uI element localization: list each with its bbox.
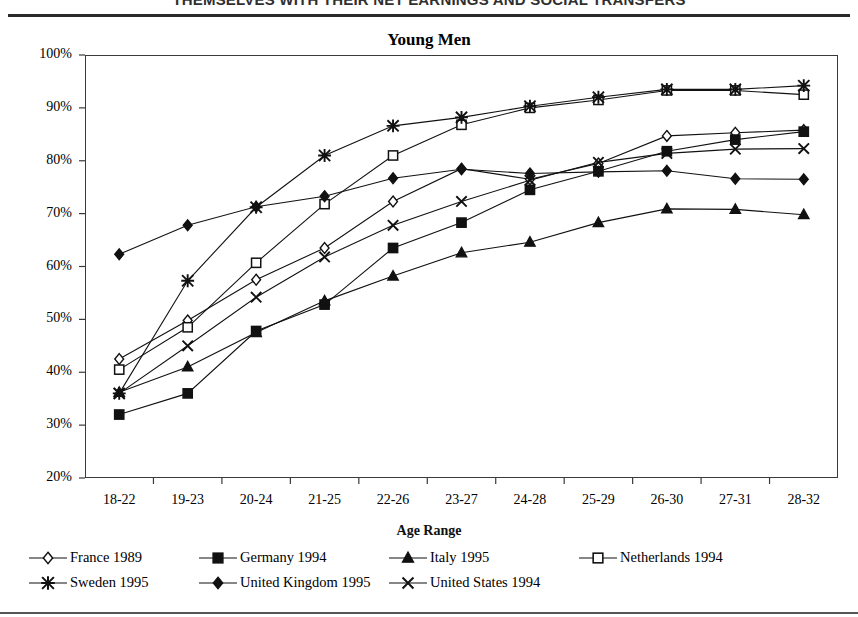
series-marker-diamond-open bbox=[115, 354, 124, 365]
x-axis-tick-label: 26-30 bbox=[630, 492, 704, 508]
legend-label: United Kingdom 1995 bbox=[238, 574, 371, 591]
footer-divider bbox=[0, 612, 858, 614]
series-marker-square-filled bbox=[183, 389, 192, 398]
series-marker-diamond-open bbox=[662, 130, 671, 141]
legend-item[interactable]: France 1989 bbox=[28, 548, 198, 568]
series-marker-asterisk bbox=[387, 119, 400, 132]
series-marker-square-filled bbox=[799, 127, 808, 136]
series-layer bbox=[113, 79, 810, 419]
legend-marker bbox=[388, 548, 428, 568]
chart-legend: France 1989Germany 1994Italy 1995Netherl… bbox=[28, 545, 838, 595]
series-marker-square-filled bbox=[388, 243, 397, 252]
series-marker-triangle-filled bbox=[182, 361, 193, 371]
x-axis-tick-label: 19-23 bbox=[151, 492, 225, 508]
x-axis-tick-label: 20-24 bbox=[219, 492, 293, 508]
x-axis-tick-label: 21-25 bbox=[288, 492, 362, 508]
y-axis-tick-label: 100% bbox=[12, 46, 72, 62]
series-marker-square-filled bbox=[115, 410, 124, 419]
series-marker-diamond-filled bbox=[799, 174, 808, 185]
series-marker-square-filled bbox=[457, 218, 466, 227]
series-marker-diamond-filled bbox=[213, 577, 222, 588]
legend-marker-wrap bbox=[28, 548, 68, 568]
legend-item[interactable]: United Kingdom 1995 bbox=[198, 573, 388, 593]
series-marker-asterisk bbox=[729, 83, 742, 96]
series-marker-asterisk bbox=[41, 576, 55, 590]
series-marker-triangle-filled bbox=[730, 204, 741, 214]
x-axis-tick-label: 18-22 bbox=[82, 492, 156, 508]
series-marker-asterisk bbox=[318, 149, 331, 162]
series-marker-square-open bbox=[183, 323, 192, 332]
legend-marker bbox=[28, 548, 68, 568]
series-united-kingdom-1995 bbox=[115, 164, 808, 260]
legend-marker bbox=[578, 548, 618, 568]
series-line bbox=[119, 86, 804, 394]
legend-row-2: Sweden 1995United Kingdom 1995United Sta… bbox=[28, 570, 838, 595]
series-marker-diamond-filled bbox=[389, 173, 398, 184]
legend-marker bbox=[198, 573, 238, 593]
chart-page: THEMSELVES WITH THEIR NET EARNINGS AND S… bbox=[0, 0, 858, 617]
series-marker-asterisk bbox=[524, 100, 537, 113]
legend-marker-wrap bbox=[198, 548, 238, 568]
x-axis-tick-label: 24-28 bbox=[493, 492, 567, 508]
series-marker-cross bbox=[251, 292, 261, 302]
y-axis-tick-label: 50% bbox=[12, 310, 72, 326]
series-marker-square-open bbox=[388, 151, 397, 160]
series-marker-diamond-open bbox=[320, 243, 329, 254]
series-marker-diamond-open bbox=[389, 196, 398, 207]
y-axis-tick-label: 60% bbox=[12, 258, 72, 274]
legend-label: Sweden 1995 bbox=[68, 574, 149, 591]
series-marker-triangle-filled bbox=[402, 552, 413, 562]
series-marker-diamond-open bbox=[252, 274, 261, 285]
x-axis-tick-label: 25-29 bbox=[561, 492, 635, 508]
x-axis-tick-label: 23-27 bbox=[425, 492, 499, 508]
x-axis-title: Age Range bbox=[0, 523, 858, 539]
series-marker-diamond-filled bbox=[662, 165, 671, 176]
series-marker-asterisk bbox=[797, 79, 810, 92]
legend-marker bbox=[198, 548, 238, 568]
series-marker-asterisk bbox=[455, 111, 468, 124]
y-axis-tick-label: 70% bbox=[12, 205, 72, 221]
series-line bbox=[119, 149, 804, 394]
legend-item[interactable]: United States 1994 bbox=[388, 573, 540, 593]
y-axis-tick-label: 80% bbox=[12, 152, 72, 168]
legend-marker-wrap bbox=[198, 573, 238, 593]
legend-marker-wrap bbox=[388, 573, 428, 593]
axis-ticks bbox=[79, 55, 770, 484]
series-marker-cross bbox=[182, 341, 192, 351]
legend-marker bbox=[388, 573, 428, 593]
legend-marker-wrap bbox=[28, 573, 68, 593]
legend-row-1: France 1989Germany 1994Italy 1995Netherl… bbox=[28, 545, 838, 570]
series-marker-square-filled bbox=[731, 135, 740, 144]
series-marker-triangle-filled bbox=[662, 203, 673, 213]
series-marker-asterisk bbox=[181, 274, 194, 287]
series-marker-diamond-filled bbox=[115, 249, 124, 260]
legend-item[interactable]: Italy 1995 bbox=[388, 548, 578, 568]
legend-item[interactable]: Sweden 1995 bbox=[28, 573, 198, 593]
series-italy-1995 bbox=[114, 203, 809, 396]
series-marker-square-filled bbox=[213, 553, 223, 563]
series-marker-asterisk bbox=[592, 91, 605, 104]
y-axis-tick-label: 30% bbox=[12, 416, 72, 432]
legend-label: Italy 1995 bbox=[428, 549, 489, 566]
series-marker-square-open bbox=[115, 365, 124, 374]
x-axis-tick-label: 22-26 bbox=[356, 492, 430, 508]
series-france-1989 bbox=[115, 125, 808, 365]
series-marker-square-filled bbox=[525, 185, 534, 194]
x-axis-tick-label: 27-31 bbox=[698, 492, 772, 508]
series-united-states-1994 bbox=[114, 143, 809, 398]
legend-marker bbox=[28, 573, 68, 593]
legend-marker-wrap bbox=[388, 548, 428, 568]
legend-marker-wrap bbox=[578, 548, 618, 568]
legend-label: United States 1994 bbox=[428, 574, 540, 591]
y-axis-tick-label: 20% bbox=[12, 469, 72, 485]
legend-item[interactable]: Netherlands 1994 bbox=[578, 548, 723, 568]
legend-label: France 1989 bbox=[68, 549, 142, 566]
y-axis-tick-label: 90% bbox=[12, 99, 72, 115]
legend-label: Netherlands 1994 bbox=[618, 549, 723, 566]
series-marker-diamond-filled bbox=[183, 220, 192, 231]
series-marker-diamond-filled bbox=[457, 164, 466, 175]
series-netherlands-1994 bbox=[115, 86, 809, 374]
x-axis-tick-label: 28-32 bbox=[767, 492, 841, 508]
series-marker-square-open bbox=[593, 553, 603, 563]
legend-item[interactable]: Germany 1994 bbox=[198, 548, 388, 568]
